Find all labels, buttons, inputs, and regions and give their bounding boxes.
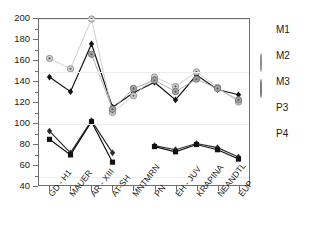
series-canvas — [39, 19, 249, 185]
chart-legend: M1 M2 M3 P3 P4 — [258, 22, 313, 152]
y-axis-tick — [33, 18, 38, 19]
data-point — [215, 147, 220, 152]
legend-item-m1: M1 — [258, 22, 313, 48]
y-axis-tick — [33, 144, 38, 145]
series-m1 — [47, 41, 241, 111]
y-axis-tick — [33, 81, 38, 82]
series-line — [50, 122, 113, 162]
legend-label: P3 — [276, 103, 288, 113]
legend-label: M1 — [276, 25, 290, 35]
y-axis-minor-tick — [35, 71, 38, 72]
data-point — [214, 85, 220, 91]
series-line — [50, 121, 113, 153]
y-axis-minor-tick — [35, 134, 38, 135]
data-point — [235, 97, 241, 103]
y-axis-minor-tick — [35, 155, 38, 156]
y-axis-tick — [33, 165, 38, 166]
y-axis-tick-label: 160 — [2, 55, 30, 65]
y-axis-tick — [33, 102, 38, 103]
data-point — [47, 74, 52, 81]
y-axis-tick-label: 40 — [2, 181, 30, 191]
y-axis-minor-tick — [35, 92, 38, 93]
series-line — [50, 19, 239, 112]
data-point — [109, 106, 115, 112]
series-m2 — [46, 16, 241, 116]
y-axis-tick-label: 60 — [2, 160, 30, 170]
legend-item-m3: M3 — [258, 74, 313, 100]
data-point — [110, 160, 115, 165]
data-point — [68, 88, 73, 95]
data-point — [172, 88, 178, 94]
y-axis-tick — [33, 186, 38, 187]
data-point — [151, 77, 157, 83]
data-point — [194, 142, 199, 147]
data-point — [89, 41, 94, 48]
y-axis-tick-label: 200 — [2, 13, 30, 23]
data-point — [46, 55, 52, 61]
y-axis-tick — [33, 123, 38, 124]
y-axis-tick — [33, 60, 38, 61]
chart-figure: 406080100120140160180200 GD - H1MAUERAR … — [0, 0, 315, 242]
legend-label: M3 — [276, 77, 290, 87]
gridline — [39, 19, 249, 20]
data-point — [193, 76, 199, 82]
y-axis-tick-label: 140 — [2, 76, 30, 86]
legend-item-m2: M2 — [258, 48, 313, 74]
y-axis-minor-tick — [35, 50, 38, 51]
gridline — [39, 124, 249, 125]
legend-label: P4 — [276, 129, 288, 139]
y-axis-tick — [33, 39, 38, 40]
legend-item-p3: P3 — [258, 100, 313, 126]
diamond-marker-icon — [258, 28, 269, 39]
y-axis-minor-tick — [35, 113, 38, 114]
plot-area — [38, 18, 250, 186]
data-point — [152, 144, 157, 149]
circle-marker-icon — [258, 80, 269, 91]
y-axis-minor-tick — [35, 29, 38, 30]
data-point — [130, 85, 136, 91]
data-point — [173, 149, 178, 154]
data-point — [88, 51, 94, 57]
y-axis-tick-label: 180 — [2, 34, 30, 44]
data-point — [130, 93, 136, 99]
y-axis-tick-label: 80 — [2, 139, 30, 149]
data-point — [68, 152, 73, 157]
legend-label: M2 — [276, 51, 290, 61]
legend-item-p4: P4 — [258, 126, 313, 152]
data-point — [47, 137, 52, 142]
y-axis-tick-label: 100 — [2, 118, 30, 128]
y-axis-tick-label: 120 — [2, 97, 30, 107]
gridline — [39, 72, 249, 73]
series-p4 — [47, 119, 241, 165]
diamond-marker-icon — [258, 106, 269, 117]
series-line — [50, 44, 239, 107]
y-axis-minor-tick — [35, 176, 38, 177]
circle-marker-icon — [258, 54, 269, 65]
square-marker-icon — [258, 132, 269, 143]
